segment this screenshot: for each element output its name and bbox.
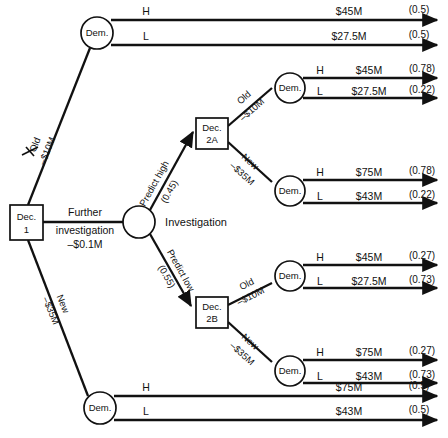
label-state-h: H [316,166,324,178]
edge-root-old [28,48,90,205]
node-dec-2b[interactable]: Dec. 2B [196,297,228,328]
label-payoff: $75M [336,381,362,393]
label-payoff: $43M [336,405,362,417]
node-dem-2b-new-label: Dem. [279,365,302,376]
label-prob: (0.78) [409,165,435,176]
label-prob: (0.5) [409,29,430,40]
branch-root-investigate-line3: –$0.1M [67,238,102,250]
decision-tree-diagram: Old –$10M Further investigation –$0.1M N… [0,0,448,438]
label-payoff: $27.5M [331,30,366,42]
label-state-l: L [143,405,149,417]
label-prob: (0.27) [409,345,435,356]
label-payoff: $27.5M [351,275,386,287]
node-dec-1-line2: 1 [24,224,29,235]
node-dec-2a[interactable]: Dec. 2A [196,118,228,149]
node-dem-2a-old-label: Dem. [279,82,302,93]
label-prob: (0.5) [409,380,430,391]
label-payoff: $45M [336,5,362,17]
node-dec-2a-line2: 2A [206,134,218,145]
label-prob: (0.73) [409,274,435,285]
node-dem-bottom-label: Dem. [89,402,112,413]
label-prob: (0.5) [409,404,430,415]
node-dem-2b-old-label: Dem. [279,270,302,281]
label-payoff: $43M [356,190,382,202]
label-state-l: L [143,30,149,42]
label-state-l: L [317,85,323,97]
node-investigation-label: Investigation [165,216,227,228]
label-payoff: $45M [356,251,382,263]
outcome-group-dem-bottom: Dem. H $75M (0.5) L $43M (0.5) [84,380,437,424]
outcome-group-dem-2a-old: Dem. H $45M (0.78) L $27.5M (0.22) [275,63,437,103]
node-dec-1[interactable]: Dec. 1 [10,205,43,240]
branch-root-investigate-line1: Further [68,206,102,218]
label-payoff: $75M [356,346,382,358]
node-dec-2a-line1: Dec. [202,122,222,133]
label-prob: (0.5) [409,4,430,15]
label-prob: (0.22) [409,84,435,95]
outcome-group-dem-2b-old: Dem. H $45M (0.27) L $27.5M (0.73) [275,250,437,291]
outcome-group-dem-top: Dem. H $45M (0.5) L $27.5M (0.5) [81,4,437,49]
label-payoff: $45M [356,64,382,76]
node-dem-2a-new-label: Dem. [279,185,302,196]
node-dec-2b-line2: 2B [206,313,218,324]
label-prob: (0.22) [409,189,435,200]
label-state-h: H [316,346,324,358]
node-investigation[interactable] [123,206,155,238]
node-dem-top-label: Dem. [86,27,109,38]
label-state-h: H [142,5,150,17]
label-prob: (0.78) [409,63,435,74]
label-prob: (0.27) [409,250,435,261]
label-state-h: H [316,251,324,263]
branch-root-investigate-line2: investigation [56,224,115,236]
node-dec-1-line1: Dec. [17,211,37,222]
label-state-l: L [317,370,323,382]
label-payoff: $27.5M [351,85,386,97]
label-payoff: $75M [356,166,382,178]
label-prob: (0.73) [409,369,435,380]
label-state-h: H [142,381,150,393]
label-state-l: L [317,190,323,202]
node-dec-2b-line1: Dec. [202,301,222,312]
outcome-group-dem-2a-new: Dem. H $75M (0.78) L $43M (0.22) [275,165,437,206]
label-state-l: L [317,275,323,287]
label-state-h: H [316,64,324,76]
